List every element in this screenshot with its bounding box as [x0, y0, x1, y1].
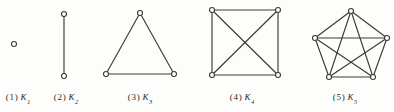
graph-edge — [351, 11, 387, 38]
graph-vertex — [172, 72, 177, 77]
panel-caption-4: (4)K4 — [230, 93, 254, 104]
caption-index: 2 — [58, 92, 63, 102]
caption-graph-subscript: 4 — [251, 98, 254, 105]
caption-graph-letter: K — [244, 92, 250, 102]
graph-vertex — [313, 36, 318, 41]
graph-edge — [106, 13, 140, 74]
panel-caption-3: (3)K3 — [128, 93, 152, 104]
caption-close-paren: ) — [63, 92, 66, 102]
graph-vertex — [104, 72, 109, 77]
graph-vertex — [349, 9, 354, 14]
caption-graph-letter: K — [142, 92, 148, 102]
graph-vertex — [62, 74, 67, 79]
caption-close-paren: ) — [15, 92, 18, 102]
caption-graph-letter: K — [68, 92, 74, 102]
caption-close-paren: ) — [342, 92, 345, 102]
graph-edge — [329, 38, 387, 77]
graph-vertex — [371, 75, 376, 80]
graph-edge — [315, 11, 351, 38]
graph-vertex — [210, 73, 215, 78]
graph-edge — [373, 38, 387, 77]
graph-vertex — [276, 73, 281, 78]
panel-caption-2: (2)K2 — [54, 93, 78, 104]
graph-vertex — [327, 75, 332, 80]
graph-vertex — [385, 36, 390, 41]
graph-vertex — [138, 11, 143, 16]
caption-graph-letter: K — [347, 92, 353, 102]
caption-close-paren: ) — [137, 92, 140, 102]
graph-vertex — [62, 12, 67, 17]
caption-graph-subscript: 1 — [27, 98, 30, 105]
graph-edge — [351, 11, 373, 77]
caption-graph-letter: K — [20, 92, 26, 102]
caption-index: 5 — [337, 92, 342, 102]
graph-edge — [315, 38, 329, 77]
panel-caption-5: (5)K5 — [333, 93, 357, 104]
vertices-layer — [12, 8, 390, 80]
graph-edge — [315, 38, 373, 77]
edges-layer — [64, 10, 387, 77]
caption-index: 4 — [234, 92, 239, 102]
caption-graph-subscript: 2 — [75, 98, 78, 105]
caption-close-paren: ) — [239, 92, 242, 102]
caption-index: 3 — [132, 92, 137, 102]
graph-edge — [329, 11, 351, 77]
graph-vertex — [12, 42, 17, 47]
graph-edge — [140, 13, 174, 74]
panel-caption-1: (1)K1 — [6, 93, 30, 104]
caption-graph-subscript: 3 — [149, 98, 152, 105]
complete-graphs-figure: (1)K1(2)K2(3)K3(4)K4(5)K5 — [0, 0, 394, 112]
graph-vertex — [276, 8, 281, 13]
caption-index: 1 — [10, 92, 15, 102]
graph-vertex — [210, 8, 215, 13]
caption-graph-subscript: 5 — [354, 98, 357, 105]
